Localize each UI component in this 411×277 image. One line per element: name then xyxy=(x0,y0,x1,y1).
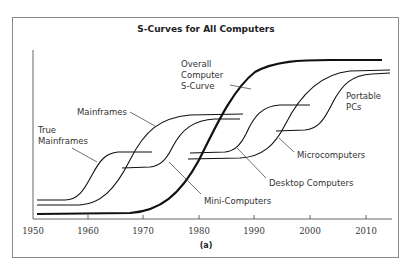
tick-2000: 2000 xyxy=(299,226,321,236)
chart-title: S-Curves for All Computers xyxy=(137,24,274,34)
label-portable-1: Portable xyxy=(346,91,381,101)
arrow-mainframes-icon xyxy=(130,112,155,126)
label-overall-2: Computer xyxy=(181,70,224,80)
arrow-microcomputers-icon xyxy=(279,138,294,152)
label-overall-3: S-Curve xyxy=(181,81,215,91)
tick-2010: 2010 xyxy=(355,226,377,236)
label-desktop-computers: Desktop Computers xyxy=(269,178,354,188)
label-true-2: Mainframes xyxy=(38,136,88,146)
x-ticks xyxy=(88,215,366,219)
tick-1990: 1990 xyxy=(243,226,265,236)
chart-caption: (a) xyxy=(200,241,213,250)
tick-1950: 1950 xyxy=(22,226,44,236)
tick-1960: 1960 xyxy=(77,226,99,236)
label-mini-computers: Mini-Computers xyxy=(204,196,272,206)
label-overall-1: Overall xyxy=(181,59,211,69)
chart-canvas: S-Curves for All Computers 1950 1960 197… xyxy=(0,0,411,277)
arrow-true-mainframes-icon xyxy=(72,148,97,162)
tick-1980: 1980 xyxy=(188,226,210,236)
curve-portable-pcs xyxy=(276,73,390,131)
label-true-1: True xyxy=(37,125,56,135)
tick-1970: 1970 xyxy=(132,226,154,236)
label-portable-2: PCs xyxy=(346,102,362,112)
curve-mainframes xyxy=(37,114,243,205)
label-mainframes: Mainframes xyxy=(77,107,127,117)
curve-true-mainframes xyxy=(37,152,152,200)
label-microcomputers: Microcomputers xyxy=(297,150,366,160)
